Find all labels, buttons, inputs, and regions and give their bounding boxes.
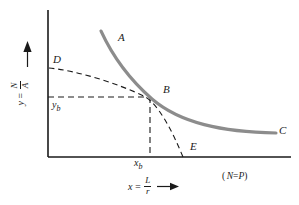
x-axis-caption-denominator: r	[145, 187, 151, 196]
x-axis-caption-fraction: L r	[144, 176, 151, 196]
up-arrow-icon	[22, 41, 33, 67]
tick-label-xb-subscript: b	[138, 162, 142, 171]
y-axis-caption-denominator: A	[21, 82, 30, 90]
paren-open: (	[222, 171, 225, 181]
tick-label-xb: xb	[134, 158, 142, 171]
x-axis-caption-equals: =	[134, 181, 141, 192]
solid-curve-ABC	[101, 31, 276, 133]
x-axis-caption-numerator: L	[144, 176, 151, 185]
point-label-b: B	[163, 84, 170, 95]
point-label-c: C	[279, 125, 286, 136]
x-axis-caption-variable: x	[128, 181, 132, 192]
tick-label-yb-subscript: b	[56, 104, 60, 113]
right-arrow-icon	[157, 182, 179, 191]
dashed-curve-DBE	[49, 68, 183, 157]
y-axis-caption-variable: y	[15, 101, 26, 105]
point-label-e: E	[190, 141, 197, 152]
x-axis-caption: x = L r	[128, 176, 179, 196]
figure-canvas: y = N A x = L r (N=P) A B C D E yb xb	[0, 0, 299, 205]
paren-close: )	[244, 171, 247, 181]
tick-label-yb: yb	[52, 100, 60, 113]
point-label-a: A	[118, 32, 125, 43]
y-axis-caption: y = N A	[0, 86, 51, 100]
y-axis-caption-equals: =	[15, 92, 26, 99]
n-equals-p-note: (N=P)	[222, 171, 247, 181]
y-axis-caption-numerator: N	[10, 81, 19, 89]
y-axis-caption-fraction: N A	[10, 81, 30, 89]
point-label-d: D	[53, 54, 61, 65]
